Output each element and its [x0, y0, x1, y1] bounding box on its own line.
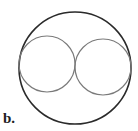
circles-diagram	[0, 0, 138, 131]
figure-label: b.	[3, 111, 15, 126]
inner-circle-left	[19, 36, 75, 92]
inner-circle-right	[75, 39, 131, 95]
